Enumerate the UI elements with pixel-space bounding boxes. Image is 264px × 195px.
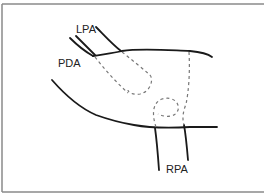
dashed-vertical <box>183 52 189 125</box>
dashed-loop <box>154 98 179 127</box>
frame-border <box>2 4 264 192</box>
hidden-structures <box>95 52 189 127</box>
upper-vessel-border <box>93 49 212 57</box>
label-pda: PDA <box>58 57 81 69</box>
pda-duct-upper <box>122 52 150 75</box>
pda-duct-end <box>128 75 152 94</box>
vessel-diagram: LPA PDA RPA <box>0 0 264 195</box>
lpa-line-upper <box>96 27 121 51</box>
label-rpa: RPA <box>166 163 188 175</box>
vessel-outlines <box>52 27 217 170</box>
diagram-frame: LPA PDA RPA <box>0 0 264 195</box>
rpa-line-left <box>155 128 159 170</box>
label-lpa: LPA <box>76 23 97 35</box>
rpa-line-right <box>184 125 188 160</box>
pda-duct-lower <box>95 57 128 93</box>
lower-vessel-border <box>52 80 217 128</box>
